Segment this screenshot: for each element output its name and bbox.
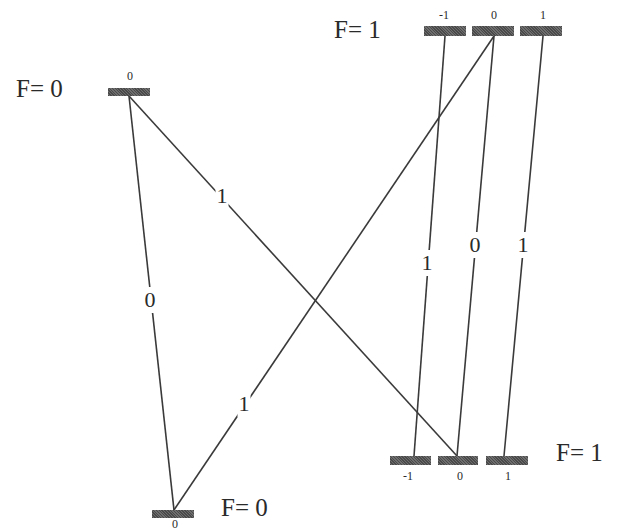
level-label-upper-f0: F= 0	[16, 76, 63, 101]
sublevel-m-label: -1	[403, 470, 413, 482]
sublevel-bar	[438, 456, 478, 465]
sublevel-m-label: 0	[491, 9, 497, 21]
sublevel-m-label: 0	[172, 518, 178, 530]
sublevel-bar	[390, 456, 431, 465]
transition-line	[414, 36, 445, 456]
sublevel-bar	[424, 26, 466, 36]
transition-label: 1	[238, 391, 251, 417]
sublevel-bar	[520, 26, 562, 36]
sublevel-m-label: 1	[540, 9, 546, 21]
sublevel-bar	[472, 26, 514, 36]
transition-line	[174, 36, 494, 510]
transition-line	[129, 96, 457, 456]
sublevel-bar	[486, 456, 528, 465]
sublevel-bar	[108, 88, 150, 96]
sublevel-m-label: -1	[439, 9, 449, 21]
level-label-lower-f1: F= 1	[556, 440, 603, 465]
sublevel-m-label: 0	[457, 470, 463, 482]
sublevel-m-label: 0	[127, 70, 133, 82]
transition-label: 1	[517, 232, 530, 258]
transition-label: 1	[216, 183, 229, 209]
transition-label: 1	[421, 250, 434, 276]
transition-label: 0	[144, 287, 157, 313]
level-label-upper-f1: F= 1	[334, 17, 381, 42]
sublevel-m-label: 1	[505, 470, 511, 482]
level-label-lower-f0: F= 0	[221, 495, 268, 520]
transition-label: 0	[469, 232, 482, 258]
